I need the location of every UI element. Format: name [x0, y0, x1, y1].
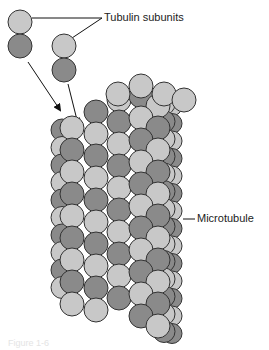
- tubulin-subunits-label: Tubulin subunits: [104, 11, 184, 23]
- tubulin-dimer-2: [52, 34, 76, 82]
- tubulin-dimer-1: [8, 10, 32, 58]
- microtubule-diagram: [0, 0, 269, 350]
- figure-caption: Figure 1-6: [8, 338, 49, 348]
- microtubule-lattice: [51, 74, 196, 344]
- microtubule-label: Microtubule: [197, 212, 254, 224]
